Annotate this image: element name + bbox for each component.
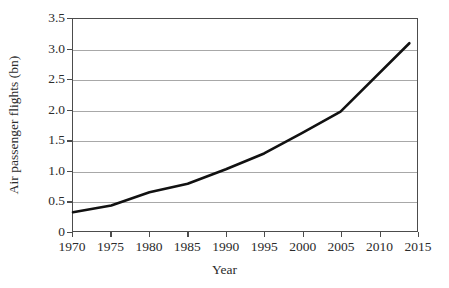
y-axis-tick-label: 3.0 — [48, 42, 65, 56]
y-axis-tick-label: 2.5 — [48, 72, 65, 86]
y-axis-tick-label: 0 — [58, 225, 65, 239]
x-axis-tick-label: 2015 — [393, 240, 443, 254]
x-axis-tick-mark — [303, 232, 304, 237]
x-axis-tick-mark — [72, 232, 73, 237]
x-axis-title: Year — [0, 262, 449, 278]
y-axis-tick-label: 3.5 — [48, 11, 65, 25]
data-series-layer — [73, 19, 417, 231]
x-axis-tick-mark — [110, 232, 111, 237]
y-axis-title: Air passenger flights (bn) — [6, 56, 22, 194]
x-axis-tick-mark — [149, 232, 150, 237]
x-axis-tick-mark — [380, 232, 381, 237]
plot-area — [72, 18, 418, 232]
x-axis-tick-mark — [226, 232, 227, 237]
series-line-air-passenger-flights — [73, 43, 409, 212]
y-axis-tick-label: 1.0 — [48, 164, 65, 178]
y-axis-tick-label: 0.5 — [48, 194, 65, 208]
y-axis-tick-label: 2.0 — [48, 103, 65, 117]
chart-figure: Air passenger flights (bn) Year 00.51.01… — [0, 0, 449, 288]
x-axis-tick-mark — [187, 232, 188, 237]
x-axis-tick-mark — [264, 232, 265, 237]
x-axis-tick-mark — [341, 232, 342, 237]
y-axis-tick-label: 1.5 — [48, 133, 65, 147]
x-axis-tick-mark — [418, 232, 419, 237]
